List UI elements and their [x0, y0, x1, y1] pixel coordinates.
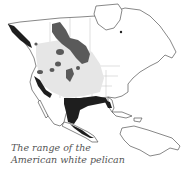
caption-line-1: The range of the	[11, 142, 125, 154]
location-dot	[120, 31, 122, 33]
map-caption: The range of the American white pelican	[11, 142, 125, 166]
caption-line-2: American white pelican	[11, 154, 125, 166]
